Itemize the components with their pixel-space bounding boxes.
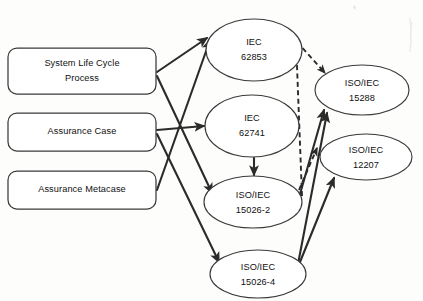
ellipse-label-iso-iec-12207-line1: ISO/IEC [349,145,384,155]
ellipse-label-iec-62741-line2: 62741 [239,128,265,138]
node-iec-62853[interactable]: IEC 62853 [206,19,302,81]
node-iso-iec-15026-4[interactable]: ISO/IEC 15026-4 [210,250,306,298]
ellipse-label-iso-iec-15288-line2: 15288 [349,93,375,103]
edge-amc-to-62853 [157,40,210,190]
box-shape-slcp [8,48,156,94]
edge-slcp-to-15026-2 [157,76,212,193]
ellipse-layer: IEC 62853 IEC 62741 ISO/IEC 15026-2 ISO/… [204,19,412,298]
box-label-slcp-line2: Process [65,73,99,83]
ellipse-label-iec-62741-line1: IEC [244,113,260,123]
node-system-life-cycle-process[interactable]: System Life Cycle Process [8,48,156,94]
ellipse-label-iso-iec-15288-line1: ISO/IEC [345,78,380,88]
ellipse-label-iec-62853-line2: 62853 [241,52,267,62]
scan-artifact-layer [353,5,412,52]
ellipse-label-iso-iec-15026-4-line2: 15026-4 [241,277,275,287]
node-iso-iec-15026-2[interactable]: ISO/IEC 15026-2 [204,176,302,228]
ellipse-label-iso-iec-15026-2-line1: ISO/IEC [236,190,271,200]
ellipse-shape-iso-iec-15026-4 [210,250,306,298]
ellipse-label-iso-iec-12207-line2: 12207 [353,160,379,170]
ellipse-shape-iso-iec-15288 [315,65,409,115]
box-label-assurance-case: Assurance Case [48,126,117,136]
node-iso-iec-15288[interactable]: ISO/IEC 15288 [315,65,409,115]
node-assurance-case[interactable]: Assurance Case [8,113,156,151]
ellipse-shape-iso-iec-12207 [320,134,412,180]
node-iec-62741[interactable]: IEC 62741 [205,95,299,157]
ellipse-shape-iso-iec-15026-2 [204,176,302,228]
edge-15026-4-to-12207 [300,178,334,262]
box-label-assurance-metacase: Assurance Metacase [38,184,126,194]
ellipse-label-iso-iec-15026-4-line1: ISO/IEC [241,262,276,272]
node-assurance-metacase[interactable]: Assurance Metacase [8,171,156,209]
diagram-svg: System Life Cycle Process Assurance Case… [0,0,423,301]
box-layer: System Life Cycle Process Assurance Case… [8,48,156,209]
box-label-slcp-line1: System Life Cycle [44,58,119,68]
ellipse-shape-iec-62853 [206,19,302,81]
node-iso-iec-12207[interactable]: ISO/IEC 12207 [320,134,412,180]
ellipse-label-iec-62853-line1: IEC [246,37,262,47]
ellipse-label-iso-iec-15026-2-line2: 15026-2 [236,205,270,215]
ellipse-shape-iec-62741 [205,95,299,157]
diagram-canvas: System Life Cycle Process Assurance Case… [0,0,423,301]
